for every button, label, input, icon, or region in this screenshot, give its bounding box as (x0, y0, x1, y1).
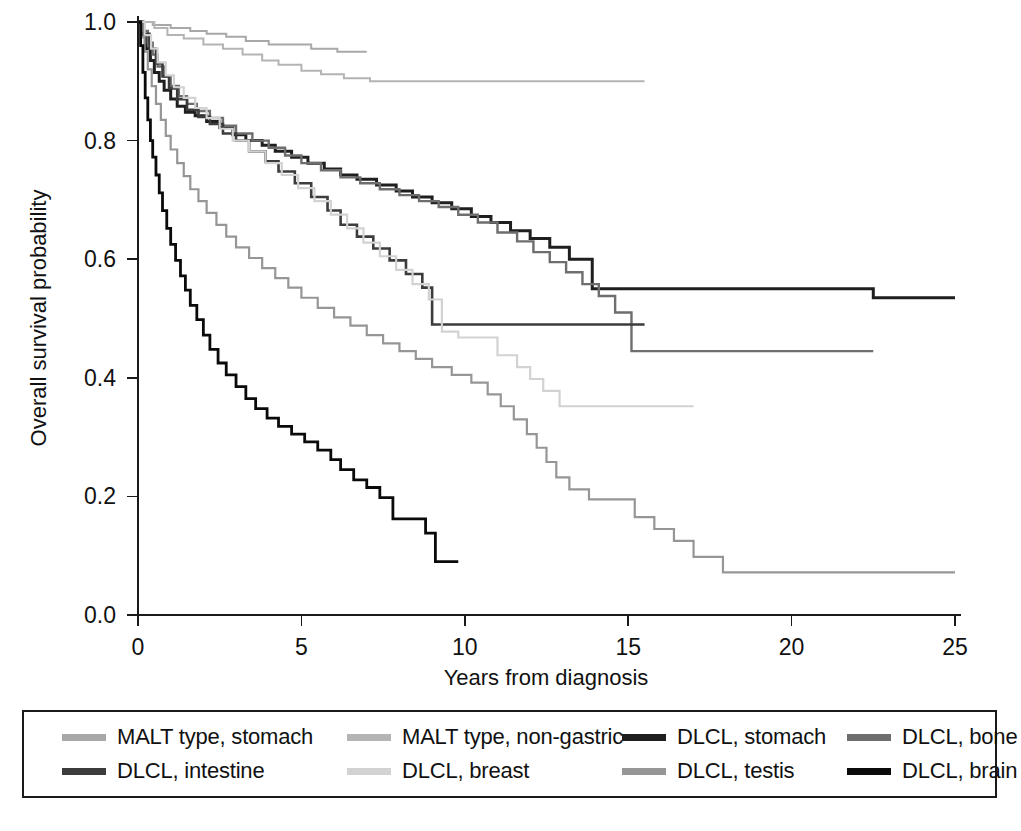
legend-item-dlcl-testis[interactable]: DLCL, testis (622, 754, 847, 788)
km-curve-malt-type-non-gastric (138, 22, 645, 81)
y-axis-title: Overall survival probability (26, 190, 51, 447)
km-curve-dlcl-stomach (138, 22, 955, 298)
legend-label: MALT type, non-gastric (402, 724, 623, 750)
km-curve-dlcl-testis (138, 22, 955, 572)
legend-item-dlcl-breast[interactable]: DLCL, breast (347, 754, 622, 788)
legend-item-malt-type-non-gastric[interactable]: MALT type, non-gastric (347, 720, 622, 754)
tick-labels-group: 0.00.20.40.60.81.00510152025 (84, 9, 968, 660)
legend-swatch-icon (62, 734, 106, 741)
legend-label: MALT type, stomach (117, 724, 313, 750)
legend-box: MALT type, stomachMALT type, non-gastric… (22, 710, 997, 798)
legend-label: DLCL, brain (902, 758, 1017, 784)
y-tick-label-2: 0.4 (84, 365, 116, 391)
km-curve-dlcl-bone (138, 22, 873, 351)
axes-group (127, 16, 961, 626)
x-axis-title: Years from diagnosis (444, 665, 649, 690)
legend-item-dlcl-bone[interactable]: DLCL, bone (847, 720, 1021, 754)
legend-swatch-icon (62, 768, 106, 775)
survival-curve-figure: 0.00.20.40.60.81.00510152025 Years from … (0, 0, 1021, 831)
y-tick-label-0: 0.0 (84, 602, 116, 628)
legend-swatch-icon (622, 768, 666, 775)
legend-label: DLCL, testis (677, 758, 794, 784)
x-tick-label-5: 25 (942, 634, 968, 660)
legend-label: DLCL, breast (402, 758, 529, 784)
legend-item-dlcl-stomach[interactable]: DLCL, stomach (622, 720, 847, 754)
x-tick-label-2: 10 (452, 634, 478, 660)
legend-swatch-icon (347, 768, 391, 775)
y-tick-label-1: 0.2 (84, 483, 116, 509)
legend-item-dlcl-intestine[interactable]: DLCL, intestine (62, 754, 347, 788)
km-curve-dlcl-breast (138, 22, 694, 406)
legend-label: DLCL, bone (902, 724, 1017, 750)
kaplan-meier-plot: 0.00.20.40.60.81.00510152025 Years from … (0, 0, 1021, 700)
legend-swatch-icon (347, 734, 391, 741)
legend-swatch-icon (847, 734, 891, 741)
legend-label: DLCL, intestine (117, 758, 264, 784)
km-curve-dlcl-intestine (138, 22, 645, 324)
legend-label: DLCL, stomach (677, 724, 826, 750)
legend-grid: MALT type, stomachMALT type, non-gastric… (24, 712, 995, 796)
y-tick-label-5: 1.0 (84, 9, 116, 35)
y-tick-label-4: 0.8 (84, 128, 116, 154)
x-tick-label-1: 5 (295, 634, 308, 660)
legend-swatch-icon (622, 734, 666, 741)
x-tick-label-3: 15 (615, 634, 641, 660)
legend-item-malt-type-stomach[interactable]: MALT type, stomach (62, 720, 347, 754)
km-curve-malt-type-stomach (138, 22, 367, 52)
x-tick-label-0: 0 (132, 634, 145, 660)
legend-swatch-icon (847, 768, 891, 775)
curve-group (138, 22, 955, 572)
legend-item-dlcl-brain[interactable]: DLCL, brain (847, 754, 1021, 788)
x-tick-label-4: 20 (779, 634, 805, 660)
y-tick-label-3: 0.6 (84, 246, 116, 272)
